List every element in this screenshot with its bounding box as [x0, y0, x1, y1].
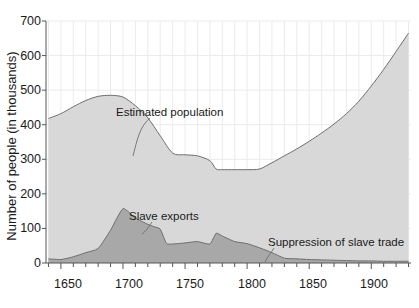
- y-tick-label-500: 500: [20, 83, 41, 97]
- x-tick-label-1800: 1800: [238, 277, 266, 291]
- x-tick-label-1750: 1750: [176, 277, 204, 291]
- y-tick-label-200: 200: [20, 187, 41, 201]
- y-axis-title: Number of people (in thousands): [4, 51, 19, 240]
- x-tick-label-1850: 1850: [299, 277, 327, 291]
- y-tick-label-700: 700: [20, 14, 41, 28]
- annotation-suppression-of-slave-trade: Suppression of slave trade: [268, 236, 404, 248]
- chart-container: 700 600 500 400 300 200 100 0 1650 1700 …: [0, 0, 419, 308]
- y-tick-label-0: 0: [34, 256, 41, 270]
- area-chart-figure: 700 600 500 400 300 200 100 0 1650 1700 …: [0, 0, 419, 308]
- x-tick-label-1650: 1650: [54, 277, 82, 291]
- x-tick-label-1700: 1700: [115, 277, 143, 291]
- y-tick-label-100: 100: [20, 221, 41, 235]
- y-tick-label-600: 600: [20, 49, 41, 63]
- annotation-slave-exports: Slave exports: [129, 210, 199, 222]
- y-tick-label-400: 400: [20, 118, 41, 132]
- y-tick-label-300: 300: [20, 152, 41, 166]
- x-tick-label-1900: 1900: [360, 277, 388, 291]
- annotation-estimated-population: Estimated population: [116, 106, 223, 118]
